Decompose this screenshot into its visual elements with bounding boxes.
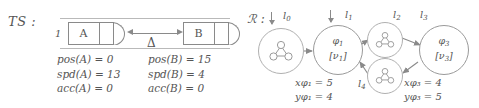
- edge-label-l2: l2: [393, 9, 401, 22]
- constraint-line: xφ₃ = 4: [404, 76, 442, 90]
- edge-label-l4: l4: [358, 78, 366, 91]
- node-n3-constraints: xφ₃ = 4 yφ₃ = 5: [404, 76, 442, 104]
- graph-node-n3[interactable]: φ3 [ν3]: [419, 25, 469, 75]
- edge-label-l3: l3: [420, 9, 428, 22]
- incoming-arrow-n0: [271, 12, 272, 24]
- graph-motif-icon: [374, 67, 396, 86]
- edge-n3-n4: [403, 62, 418, 73]
- incoming-arrow-n1: [330, 10, 331, 22]
- node-n1-valuation: [ν1]: [329, 50, 347, 65]
- graph-node-n0[interactable]: [258, 28, 304, 74]
- graph-motif-icon: [267, 39, 295, 63]
- node-n1-text: φ1 [ν1]: [314, 26, 362, 74]
- node-n3-text: φ3 [ν3]: [420, 26, 468, 74]
- node-n1-constraints: xφ₁ = 5 yφ₁ = 4: [295, 76, 333, 104]
- graph-node-n2[interactable]: [367, 22, 403, 58]
- constraint-line: yφ₃ = 5: [404, 90, 442, 104]
- constraint-line: xφ₁ = 5: [295, 76, 333, 90]
- node-n3-formula: φ3: [438, 35, 449, 50]
- node-n1-formula: φ1: [332, 35, 343, 50]
- node-n3-valuation: [ν3]: [435, 50, 453, 65]
- edge-n2-n3: [402, 38, 420, 45]
- graph-node-n4[interactable]: [367, 58, 403, 94]
- constraint-line: yφ₁ = 4: [295, 90, 333, 104]
- graph-motif-icon: [374, 31, 396, 50]
- figure-canvas: TS : 1 A B Δ pos(A) = 0 spd(A) = 13 acc(…: [0, 0, 479, 108]
- graph-node-n1[interactable]: φ1 [ν1]: [313, 25, 363, 75]
- edge-label-l1: l1: [345, 9, 353, 22]
- edge-label-l0: l0: [283, 10, 291, 23]
